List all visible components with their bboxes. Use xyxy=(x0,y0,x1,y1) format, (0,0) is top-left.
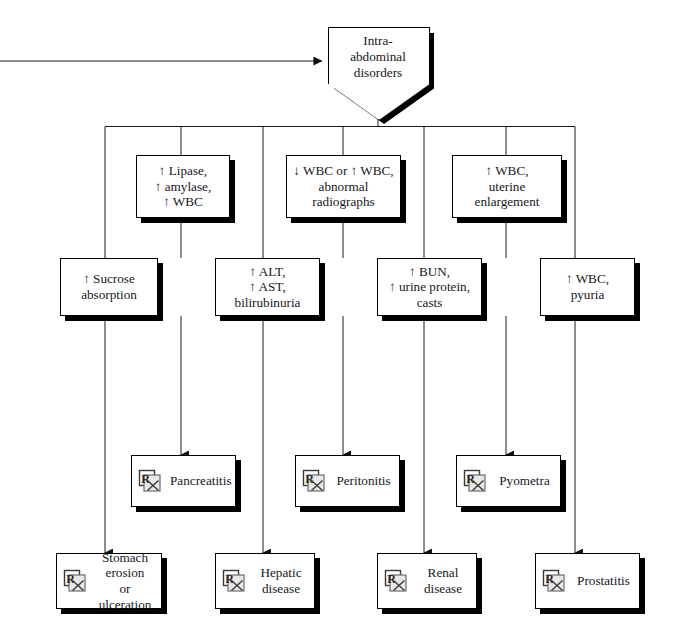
finding-wbc-abnormal-radiographs-label: ↓ WBC or ↑ WBC, abnormal radiographs xyxy=(289,163,397,210)
diagnosis-prostatitis[interactable]: R Prostatitis xyxy=(535,553,640,609)
svg-text:R: R xyxy=(466,472,475,486)
diagnosis-renal-disease-label: Renal disease xyxy=(412,565,476,596)
finding-alt-ast-bilirubinuria-label: ↑ ALT, ↑ AST, bilirubinuria xyxy=(231,264,305,311)
diagnosis-peritonitis[interactable]: R Peritonitis xyxy=(295,455,400,507)
diagnosis-renal-disease[interactable]: R Renal disease xyxy=(377,553,477,609)
rx-prescription-icon: R xyxy=(384,569,408,593)
diagnosis-hepatic-disease-label: Hepatic disease xyxy=(250,565,314,596)
root-node-intra-abdominal-disorders[interactable]: Intra- abdominal disorders xyxy=(328,27,428,118)
diagnosis-pyometra[interactable]: R Pyometra xyxy=(456,455,561,507)
diagnosis-pyometra-label: Pyometra xyxy=(491,473,560,489)
finding-bun-urine-protein-casts[interactable]: ↑ BUN, ↑ urine protein, casts xyxy=(377,258,482,316)
finding-sucrose-absorption[interactable]: ↑ Sucrose absorption xyxy=(60,258,158,316)
diagnosis-pancreatitis[interactable]: R Pancreatitis xyxy=(131,455,236,507)
finding-wbc-uterine-enlargement[interactable]: ↑ WBC, uterine enlargement xyxy=(452,155,562,218)
svg-text:R: R xyxy=(387,572,396,586)
diagnosis-stomach-erosion-or-ulceration-label: Stomach erosion or ulceration xyxy=(91,550,161,612)
root-node-label: Intra- abdominal disorders xyxy=(328,33,428,81)
rx-prescription-icon: R xyxy=(138,469,162,493)
finding-lipase-amylase-wbc[interactable]: ↑ Lipase, ↑ amylase, ↑ WBC xyxy=(136,155,230,218)
finding-sucrose-absorption-label: ↑ Sucrose absorption xyxy=(77,271,141,302)
finding-wbc-pyuria-label: ↑ WBC, pyuria xyxy=(562,271,613,302)
svg-text:R: R xyxy=(225,572,234,586)
finding-wbc-uterine-enlargement-label: ↑ WBC, uterine enlargement xyxy=(471,163,544,210)
rx-prescription-icon: R xyxy=(302,469,326,493)
rx-prescription-icon: R xyxy=(542,569,566,593)
rx-prescription-icon: R xyxy=(222,569,246,593)
flowchart-canvas: Intra- abdominal disorders ↑ Lipase, ↑ a… xyxy=(0,0,673,641)
diagnosis-pancreatitis-label: Pancreatitis xyxy=(166,473,238,489)
diagnosis-hepatic-disease[interactable]: R Hepatic disease xyxy=(215,553,315,609)
finding-wbc-pyuria[interactable]: ↑ WBC, pyuria xyxy=(540,258,635,316)
finding-bun-urine-protein-casts-label: ↑ BUN, ↑ urine protein, casts xyxy=(385,264,474,311)
svg-text:R: R xyxy=(305,472,314,486)
diagnosis-stomach-erosion-or-ulceration[interactable]: R Stomach erosion or ulceration xyxy=(56,553,162,609)
finding-alt-ast-bilirubinuria[interactable]: ↑ ALT, ↑ AST, bilirubinuria xyxy=(215,258,320,316)
finding-wbc-abnormal-radiographs[interactable]: ↓ WBC or ↑ WBC, abnormal radiographs xyxy=(286,155,401,218)
svg-text:R: R xyxy=(545,572,554,586)
svg-text:R: R xyxy=(141,472,150,486)
rx-prescription-icon: R xyxy=(463,469,487,493)
finding-lipase-amylase-wbc-label: ↑ Lipase, ↑ amylase, ↑ WBC xyxy=(151,163,215,210)
diagnosis-peritonitis-label: Peritonitis xyxy=(330,473,399,489)
diagnosis-prostatitis-label: Prostatitis xyxy=(570,573,639,589)
svg-text:R: R xyxy=(66,572,75,586)
rx-prescription-icon: R xyxy=(63,569,87,593)
